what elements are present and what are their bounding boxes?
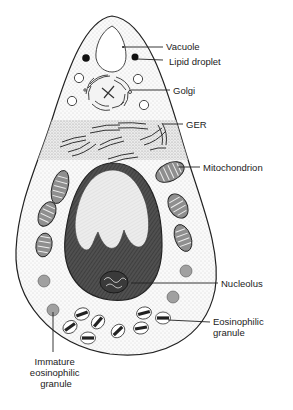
nucleolus — [100, 271, 128, 293]
label-nucleolus: Nucleolus — [221, 278, 263, 289]
label-lipid-droplet: Lipid droplet — [169, 56, 221, 67]
label-golgi: Golgi — [173, 85, 195, 96]
cell-diagram: Vacuole Lipid droplet Golgi GER Mitochon… — [0, 0, 293, 410]
label-immature-granule-line1: Immature — [35, 356, 75, 367]
label-eosinophilic-granule-line1: Eosinophilic — [213, 316, 264, 327]
label-mitochondrion: Mitochondrion — [203, 162, 263, 173]
label-eosinophilic-granule-line2: granule — [213, 327, 245, 338]
label-immature-granule: Immature eosinophilic granule — [30, 356, 82, 389]
label-immature-granule-line2: eosinophilic — [30, 367, 80, 378]
label-vacuole: Vacuole — [166, 41, 200, 52]
lipid-droplet — [82, 54, 90, 62]
label-ger: GER — [186, 119, 207, 130]
label-eosinophilic-granule: Eosinophilic granule — [213, 316, 266, 338]
label-immature-granule-line3: granule — [40, 378, 72, 389]
